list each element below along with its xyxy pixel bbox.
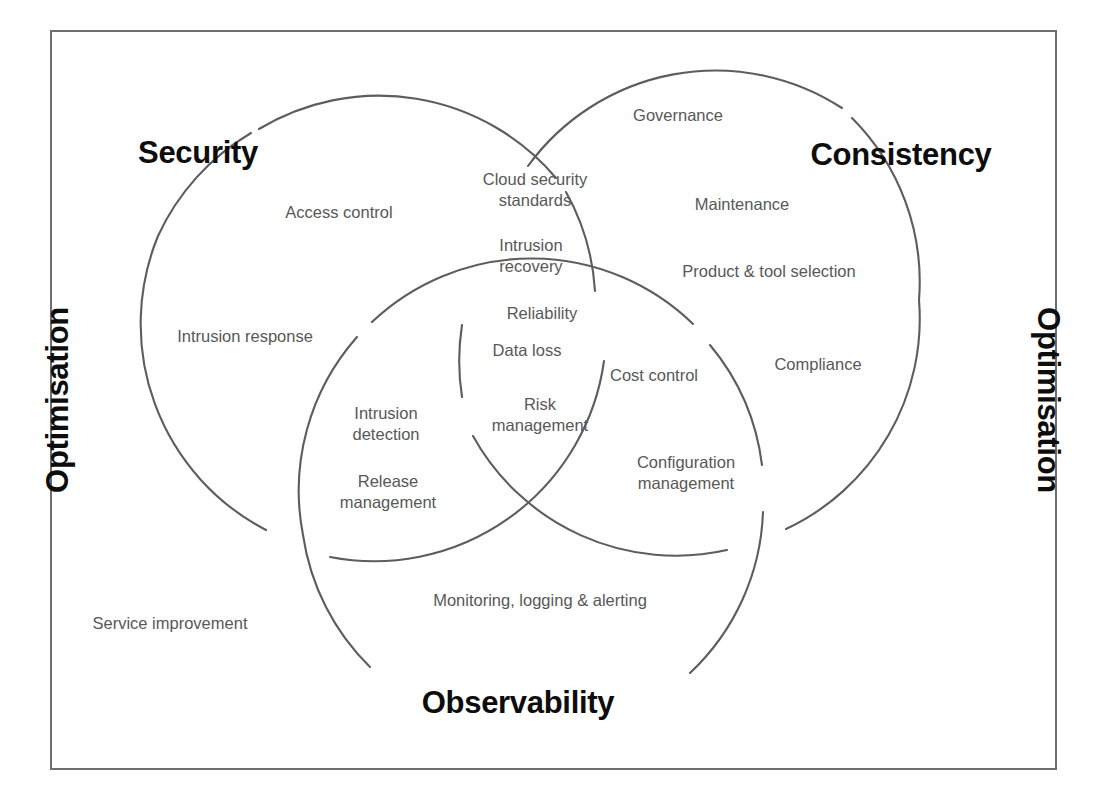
- label-service-improvement: Service improvement: [93, 613, 248, 634]
- circle-title-consistency: Consistency: [810, 139, 991, 170]
- label-compliance: Compliance: [774, 354, 861, 375]
- label-risk-management: Risk management: [492, 394, 588, 435]
- label-reliability: Reliability: [507, 303, 578, 324]
- label-cloud-security-standards: Cloud security standards: [483, 169, 588, 210]
- label-access-control: Access control: [285, 202, 392, 223]
- venn-diagram-canvas: Optimisation Optimisation Security Consi…: [0, 0, 1099, 802]
- label-release-management: Release management: [340, 471, 436, 512]
- label-monitoring-logging-alerting: Monitoring, logging & alerting: [433, 590, 647, 611]
- label-governance: Governance: [633, 105, 723, 126]
- circle-title-observability: Observability: [422, 687, 615, 718]
- circle-title-security: Security: [138, 137, 258, 168]
- label-configuration-management: Configuration management: [637, 452, 735, 493]
- label-product-tool-selection: Product & tool selection: [682, 261, 855, 282]
- label-intrusion-detection: Intrusion detection: [353, 403, 420, 444]
- side-title-left: Optimisation: [42, 307, 73, 493]
- label-intrusion-recovery: Intrusion recovery: [499, 235, 562, 276]
- label-cost-control: Cost control: [610, 365, 698, 386]
- label-intrusion-response: Intrusion response: [177, 326, 313, 347]
- label-maintenance: Maintenance: [695, 194, 789, 215]
- label-data-loss: Data loss: [493, 340, 562, 361]
- side-title-right: Optimisation: [1033, 307, 1064, 493]
